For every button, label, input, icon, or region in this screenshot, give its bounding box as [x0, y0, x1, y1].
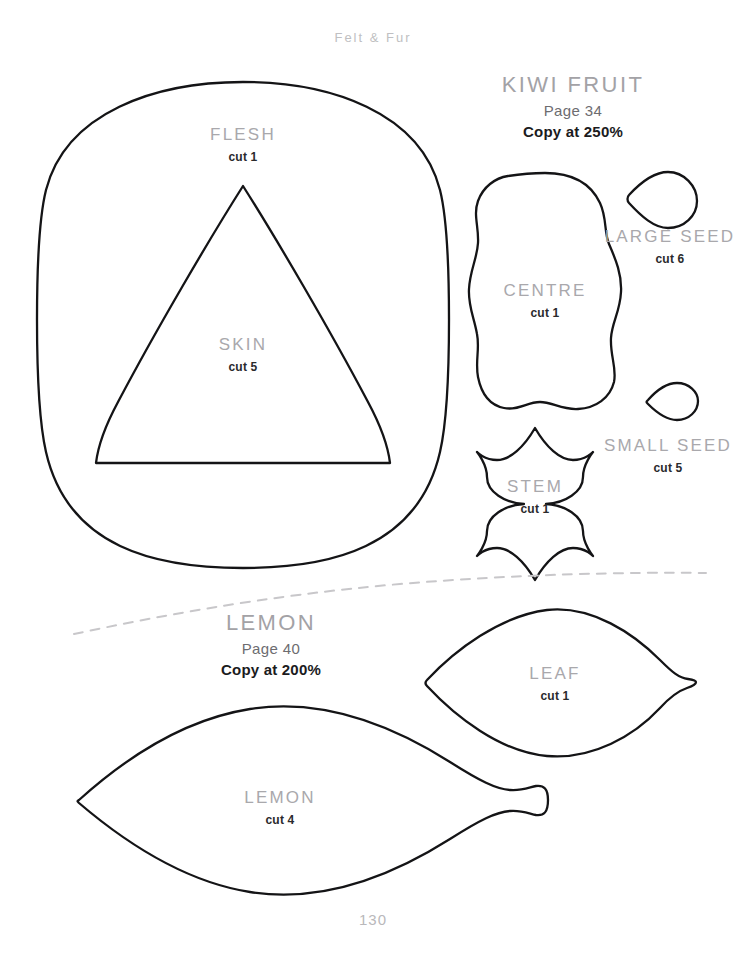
pattern-page: Felt & Fur KIWI FRUIT Page 34 Copy at 25…: [0, 0, 746, 960]
skin-outline: [96, 186, 390, 463]
stem-outline: [477, 428, 593, 580]
lemon-outline: [78, 706, 549, 894]
small-seed-outline: [647, 383, 699, 420]
page-number: 130: [0, 911, 746, 928]
large-seed-outline: [628, 172, 698, 228]
pattern-artwork: [0, 0, 746, 960]
pattern-page-reference: Page 34: [438, 103, 708, 118]
leaf-outline: [426, 609, 697, 756]
flesh-outline: [37, 82, 449, 568]
pattern-page-reference: Page 40: [165, 641, 377, 656]
pattern-title-lemon: LEMON Page 40 Copy at 200%: [165, 612, 377, 677]
pattern-title-name: KIWI FRUIT: [438, 74, 708, 96]
pattern-title-name: LEMON: [165, 612, 377, 634]
pattern-copy-scale: Copy at 250%: [438, 124, 708, 139]
pattern-title-kiwi-fruit: KIWI FRUIT Page 34 Copy at 250%: [438, 74, 708, 139]
pattern-copy-scale: Copy at 200%: [165, 662, 377, 677]
centre-outline: [469, 173, 621, 409]
